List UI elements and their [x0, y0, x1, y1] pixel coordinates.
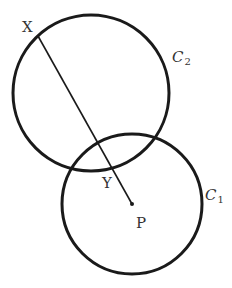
label-x: X [22, 20, 33, 35]
label-c1-sub: 1 [217, 194, 223, 205]
label-c2-main: C [172, 48, 183, 66]
point-p-dot [130, 202, 134, 206]
label-c2-sub: 2 [184, 56, 190, 67]
label-c2: C2 [172, 50, 191, 67]
diagram-canvas: X Y P C2 C1 [0, 0, 232, 288]
diagram-svg [0, 0, 232, 288]
label-p: P [136, 216, 146, 231]
label-c1: C1 [205, 188, 224, 205]
label-c1-main: C [205, 186, 216, 204]
label-y: Y [102, 176, 112, 191]
segment-xp [38, 36, 132, 204]
